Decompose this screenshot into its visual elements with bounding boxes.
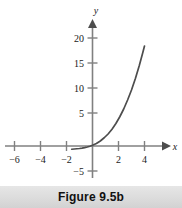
y-axis-arrow-icon bbox=[88, 19, 97, 28]
y-tick-label-5: 5 bbox=[79, 108, 84, 119]
coordinate-plot: −6 −4 −2 2 4 −5 5 10 15 20 x y bbox=[0, 0, 182, 186]
x-tick-label-minus6: −6 bbox=[9, 154, 20, 165]
x-axis-label: x bbox=[172, 141, 178, 152]
x-tick-label-minus4: −4 bbox=[35, 154, 46, 165]
y-tick-label-20: 20 bbox=[74, 33, 84, 44]
y-tick-label-10: 10 bbox=[74, 83, 84, 94]
x-tick-label-4: 4 bbox=[142, 154, 147, 165]
x-tick-label-2: 2 bbox=[116, 154, 121, 165]
figure-page: −6 −4 −2 2 4 −5 5 10 15 20 x y Figure 9.… bbox=[0, 0, 182, 208]
figure-caption: Figure 9.5b bbox=[58, 190, 124, 204]
x-axis-arrow-icon bbox=[162, 142, 171, 151]
y-axis-label: y bbox=[93, 5, 99, 16]
plot-area: −6 −4 −2 2 4 −5 5 10 15 20 x y bbox=[0, 0, 182, 186]
x-tick-label-minus2: −2 bbox=[61, 154, 72, 165]
caption-band: Figure 9.5b bbox=[0, 186, 182, 208]
y-tick-label-minus5: −5 bbox=[73, 166, 84, 177]
y-tick-label-15: 15 bbox=[74, 58, 84, 69]
